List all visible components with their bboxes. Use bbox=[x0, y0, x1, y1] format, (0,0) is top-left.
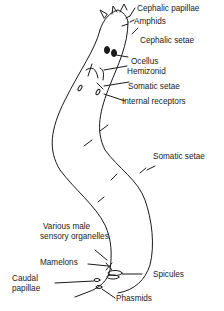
label-mamelons: Mamelons bbox=[40, 258, 78, 267]
label-hemizonid: Hemizonid bbox=[127, 67, 166, 76]
label-phasmids: Phasmids bbox=[116, 294, 152, 303]
label-caudal-line2: papillae bbox=[12, 284, 40, 293]
label-various-male-line2: sensory organelles bbox=[40, 232, 109, 241]
label-internal-receptors: Internal receptors bbox=[122, 97, 186, 106]
label-spicules: Spicules bbox=[153, 270, 184, 279]
label-caudal-line1: Caudal bbox=[12, 274, 38, 283]
label-cephalic-papillae: Cephalic papillae bbox=[137, 4, 199, 13]
label-various-male-line1: Various male bbox=[43, 222, 90, 231]
label-somatic-setae-body: Somatic setae bbox=[153, 152, 205, 161]
head-outline bbox=[100, 10, 128, 30]
label-ocellus: Ocellus bbox=[131, 57, 158, 66]
label-somatic-setae-head: Somatic setae bbox=[128, 82, 180, 91]
label-amphids: Amphids bbox=[134, 17, 166, 26]
ocellus-shape bbox=[105, 47, 110, 54]
label-cephalic-setae: Cephalic setae bbox=[140, 36, 194, 45]
